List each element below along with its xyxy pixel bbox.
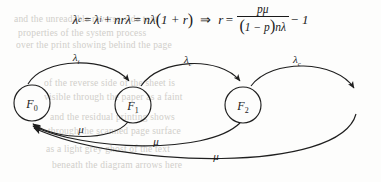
denominator-tail: nλ: [275, 21, 286, 33]
nrlambda-term: nrλ: [114, 12, 131, 28]
equals-sign-3: =: [223, 12, 235, 28]
node-f2[interactable]: F2: [225, 87, 261, 123]
implies-arrow: ⇒: [193, 12, 218, 28]
fraction: pμ (1 − p)nλ: [237, 3, 289, 35]
edge-label-mu-3: μ: [212, 150, 219, 162]
plus-sign: +: [102, 12, 114, 28]
edge-f2-to-next: [251, 66, 354, 88]
node-f1[interactable]: F1: [115, 87, 151, 123]
equals-sign-2: =: [131, 12, 143, 28]
edge-label-mu-2: μ: [152, 135, 159, 147]
node-f2-label: F2: [236, 99, 248, 115]
state-transition-diagram: F0 F1 F2 λi λc λc μ μ μ: [0, 38, 381, 182]
scanned-page: and the unreadable reverse-side text pro…: [0, 0, 381, 182]
node-f1-label: F1: [126, 99, 138, 115]
edge-label-mu-1: μ: [77, 123, 84, 135]
denominator-body: 1 − p: [245, 21, 270, 33]
equation-line: λc = λi + nrλ = nλ ( 1 + r ) ⇒ r = pμ (1…: [0, 4, 381, 36]
minus-one: − 1: [290, 12, 309, 28]
equals-sign: =: [82, 12, 94, 28]
one-plus-r: 1 + r: [161, 12, 188, 28]
edge-label-lambda-c-2: λc: [292, 53, 302, 68]
edge-f0-to-f1: [28, 63, 129, 84]
edge-label-lambda-c-1: λc: [183, 53, 193, 68]
fraction-numerator: pμ: [254, 3, 272, 15]
fraction-denominator: (1 − p)nλ: [237, 18, 289, 35]
node-f0[interactable]: F0: [14, 85, 50, 121]
nlambda-term: nλ: [143, 12, 155, 28]
node-f0-label: F0: [25, 97, 37, 113]
